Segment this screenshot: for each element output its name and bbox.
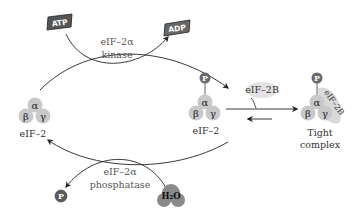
gamma-label: γ — [40, 111, 46, 122]
phosphatase-label-line2: phosphatase — [90, 179, 151, 190]
eif2-cycle-diagram: ATP ADP eIF–2α kinase eIF–2α phosphatase… — [0, 0, 361, 216]
h2o-icon: H₂O — [157, 184, 185, 207]
atp-icon: ATP — [44, 11, 76, 33]
released-phosphate-label: P — [58, 191, 64, 201]
middle-eif2-phospho-complex: P α β γ eIF–2 — [189, 73, 221, 137]
beta-label: β — [23, 111, 29, 122]
eif2b-label: eIF–2B — [245, 84, 279, 95]
phosphate-label: P — [202, 73, 208, 83]
phosphatase-label-line1: eIF–2α — [103, 166, 137, 177]
tight-complex-label-line1: Tight — [307, 127, 333, 138]
adp-icon: ADP — [164, 20, 190, 36]
tight-complex: eIF–2B P α β γ Tight complex — [300, 73, 346, 151]
kinase-label-line1: eIF–2α — [100, 36, 134, 47]
released-phosphate-icon: P — [55, 190, 67, 202]
phosphatase-main-arc — [48, 140, 228, 165]
h2o-label: H₂O — [161, 191, 181, 201]
eif2b-equilibrium: eIF–2B — [226, 82, 297, 119]
tight-complex-label-line2: complex — [300, 139, 341, 150]
gamma-label: γ — [322, 108, 328, 119]
kinase-label-line2: kinase — [101, 49, 132, 60]
alpha-label: α — [202, 97, 209, 108]
alpha-label: α — [314, 97, 321, 108]
beta-label: β — [193, 108, 199, 119]
gamma-label: γ — [210, 108, 216, 119]
middle-eif2-label: eIF–2 — [193, 125, 220, 136]
alpha-label: α — [32, 100, 39, 111]
phosphate-label: P — [314, 73, 320, 83]
beta-label: β — [305, 108, 311, 119]
left-eif2-complex: α β γ eIF–2 — [19, 98, 51, 140]
left-eif2-label: eIF–2 — [20, 128, 47, 139]
